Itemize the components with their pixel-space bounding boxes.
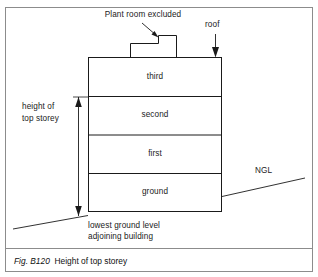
- plant-room-leader-arrow: [142, 23, 159, 38]
- plant-room-shape: [131, 36, 177, 58]
- height-dimension-label-line1: height of: [22, 102, 54, 113]
- ground-note-line1: lowest ground level: [88, 221, 160, 232]
- figure-frame: [5, 7, 313, 272]
- ngl-label: NGL: [255, 166, 272, 177]
- figure-drawing: [0, 0, 318, 277]
- figure-height-of-top-storey: Plant room excluded roof NGL height of t…: [0, 0, 318, 277]
- storey-dividers: [89, 97, 222, 174]
- ground-line-left: [13, 216, 88, 230]
- height-dimension-label-line2: top storey: [22, 114, 59, 125]
- storey-label-first: first: [88, 149, 222, 160]
- ground-line-right-ngl: [222, 178, 305, 197]
- roof-leader-arrow: [212, 34, 219, 58]
- ground-note-line2: adjoining building: [88, 232, 153, 243]
- storey-label-second: second: [88, 110, 222, 121]
- figure-number: Fig. B120: [14, 256, 50, 266]
- dimension-arrow-bottom: [75, 206, 82, 216]
- roof-label: roof: [205, 20, 220, 31]
- storey-label-ground: ground: [88, 187, 222, 198]
- figure-caption: Fig. B120 Height of top storey: [14, 256, 127, 266]
- plant-room-label: Plant room excluded: [78, 10, 208, 21]
- storey-label-third: third: [88, 72, 222, 83]
- height-dimension-line: [73, 97, 89, 216]
- figure-title: Height of top storey: [55, 256, 128, 266]
- dimension-arrow-top: [75, 97, 82, 107]
